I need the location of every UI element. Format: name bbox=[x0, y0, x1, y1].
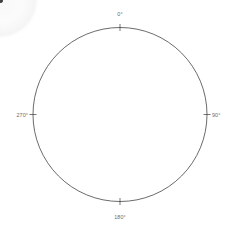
density-halo bbox=[0, 0, 40, 40]
angular-label-180: 180° bbox=[114, 214, 126, 220]
angular-label-90: 90° bbox=[212, 112, 220, 118]
density-halo-disc bbox=[0, 0, 40, 40]
polar-chart-canvas: 0° 90° 180° 270° bbox=[0, 0, 240, 237]
angular-tick-layer bbox=[30, 24, 211, 205]
outer-boundary-circle bbox=[33, 28, 207, 202]
angular-label-270: 270° bbox=[16, 112, 28, 118]
pole-figure-plot: 0° 90° 180° 270° bbox=[0, 0, 240, 237]
angular-label-0: 0° bbox=[117, 11, 122, 17]
